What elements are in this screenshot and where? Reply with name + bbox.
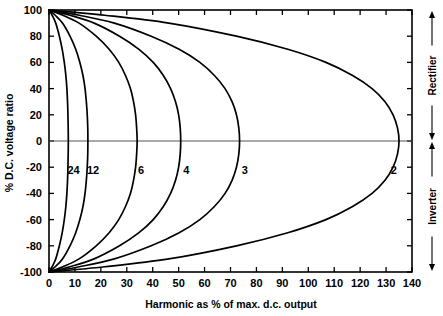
y-axis-title: % D.C. voltage ratio: [3, 94, 15, 193]
y-tick-label: 100: [24, 4, 42, 16]
y-tick-label: -20: [26, 161, 42, 173]
y-tick-label: 0: [36, 135, 42, 147]
y-tick-label: -80: [26, 240, 42, 252]
x-tick-label: 70: [224, 277, 236, 289]
dc-voltage-ratio-chart: 24126432 0102030405060708090100110120130…: [0, 0, 443, 316]
y-tick-label: -60: [26, 214, 42, 226]
chart-figure: 24126432 0102030405060708090100110120130…: [0, 0, 443, 316]
y-tick-label: 80: [30, 30, 42, 42]
x-tick-label: 60: [198, 277, 210, 289]
x-tick-label: 20: [95, 277, 107, 289]
x-tick-label: 80: [250, 277, 262, 289]
x-tick-label: 40: [147, 277, 159, 289]
curve-label-12: 12: [87, 164, 99, 176]
curve-label-2: 2: [391, 164, 397, 176]
curve-label-3: 3: [242, 164, 248, 176]
curve-label-group: 24126432: [68, 164, 397, 176]
annotation-label-rectifier: Rectifier: [427, 55, 438, 95]
y-tick-label: 20: [30, 109, 42, 121]
curve-label-6: 6: [138, 164, 144, 176]
y-tick-label: -40: [26, 187, 42, 199]
x-tick-label: 100: [299, 277, 317, 289]
curve-label-4: 4: [183, 164, 190, 176]
x-axis-tick-labels: 0102030405060708090100110120130140: [46, 277, 421, 289]
x-tick-label: 120: [351, 277, 369, 289]
curve-label-24: 24: [68, 164, 81, 176]
x-axis-title: Harmonic as % of max. d.c. output: [145, 298, 317, 310]
x-tick-label: 130: [377, 277, 395, 289]
x-tick-label: 0: [46, 277, 52, 289]
y-tick-label: 40: [30, 83, 42, 95]
side-annotation-group: RectifierInverter: [427, 11, 438, 271]
x-tick-label: 30: [121, 277, 133, 289]
y-tick-label: -100: [20, 266, 42, 278]
y-tick-label: 60: [30, 56, 42, 68]
annotation-arrowhead: [429, 133, 435, 140]
y-axis-tick-labels: 100806040200-20-40-60-80-100: [20, 4, 42, 278]
x-tick-label: 110: [325, 277, 343, 289]
x-tick-label: 50: [173, 277, 185, 289]
annotation-arrowhead: [429, 11, 435, 18]
annotation-arrowhead: [429, 264, 435, 271]
x-tick-label: 10: [69, 277, 81, 289]
x-tick-label: 140: [403, 277, 421, 289]
annotation-label-inverter: Inverter: [427, 188, 438, 225]
annotation-arrowhead: [429, 142, 435, 149]
x-tick-label: 90: [276, 277, 288, 289]
